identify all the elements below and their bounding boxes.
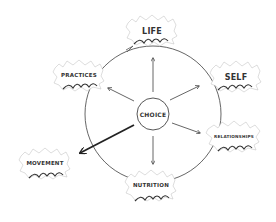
arrow-to-practices <box>108 88 134 101</box>
choice-diagram <box>0 0 276 222</box>
node-label-nutrition: NUTRITION <box>133 182 169 188</box>
arrow-to-movement <box>80 125 134 153</box>
node-label-self: SELF <box>225 73 248 82</box>
node-label-life: LIFE <box>142 27 162 36</box>
arrow-to-self <box>170 86 199 100</box>
node-label-practices: PRACTICES <box>61 72 97 78</box>
arrow-to-relationships <box>172 123 200 133</box>
node-label-movement: MOVEMENT <box>26 160 63 166</box>
node-label-relationships: RELATIONSHIPS <box>214 134 254 139</box>
center-label-choice: CHOICE <box>140 111 166 118</box>
